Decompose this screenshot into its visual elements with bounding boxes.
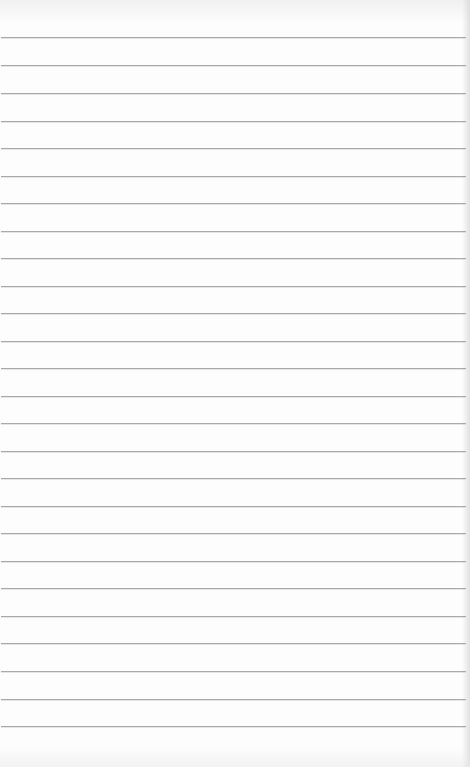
ruled-line: [1, 643, 466, 644]
ruled-line: [1, 671, 466, 672]
ruled-line: [1, 699, 466, 700]
ruled-line: [1, 451, 466, 452]
ruled-line: [1, 423, 466, 424]
ruled-line: [1, 588, 466, 589]
ruled-line: [1, 313, 466, 314]
ruled-line: [1, 148, 466, 149]
lined-paper-sheet: [0, 0, 470, 767]
ruled-line: [1, 533, 466, 534]
ruled-line: [1, 478, 466, 479]
ruled-line: [1, 561, 466, 562]
ruled-line: [1, 368, 466, 369]
ruled-line: [1, 203, 466, 204]
ruled-line: [1, 37, 466, 38]
ruled-line: [1, 616, 466, 617]
ruled-line: [1, 231, 466, 232]
ruled-line: [1, 726, 466, 727]
ruled-line: [1, 93, 466, 94]
ruled-line: [1, 506, 466, 507]
ruled-line: [1, 341, 466, 342]
ruled-line: [1, 258, 466, 259]
ruled-line: [1, 121, 466, 122]
right-edge-shadow: [462, 0, 470, 767]
ruled-line: [1, 396, 466, 397]
ruled-line: [1, 176, 466, 177]
ruled-line: [1, 286, 466, 287]
ruled-line: [1, 65, 466, 66]
